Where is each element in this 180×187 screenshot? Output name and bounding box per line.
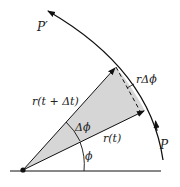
label-delta-phi: Δϕ <box>74 121 91 134</box>
label-r-delta-phi: rΔϕ <box>136 73 157 86</box>
angle-arc-phi <box>80 142 84 171</box>
label-p: P <box>159 138 169 152</box>
label-r-t-plus-dt: r(t + Δt) <box>32 95 79 108</box>
origin-point <box>20 167 25 172</box>
label-r-t: r(t) <box>103 132 121 145</box>
sector-wedge <box>23 67 145 170</box>
orbit-sector-diagram: P′ P rΔϕ r(t + Δt) r(t) Δϕ ϕ <box>0 0 180 187</box>
label-phi: ϕ <box>85 150 93 163</box>
label-p-prime: P′ <box>36 20 48 34</box>
